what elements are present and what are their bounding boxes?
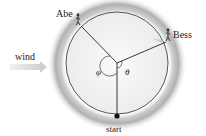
label-wind: wind <box>15 51 35 62</box>
label-abe: Abe <box>56 8 73 19</box>
label-bess: Bess <box>173 29 192 40</box>
wind-arrow-icon <box>10 61 47 73</box>
start-point <box>114 113 119 118</box>
label-angle-theta: θ <box>125 67 130 77</box>
label-angle-phi: φ <box>96 67 101 77</box>
label-start: start <box>106 124 122 134</box>
circular-track-diagram: Abe Bess wind start φ θ <box>0 0 206 136</box>
